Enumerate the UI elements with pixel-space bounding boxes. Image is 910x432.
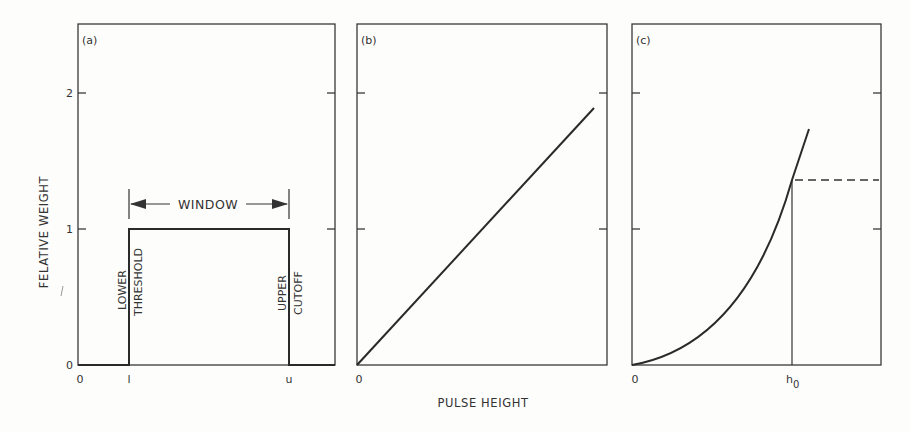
panel-b: (b) 0 PULSE HEIGHT <box>356 24 608 410</box>
figure: WINDOW LOWER THRESHOLD UPPER CUTOFF (a) … <box>0 0 910 432</box>
linear-weight-line <box>357 108 594 365</box>
ytick-label-2: 2 <box>66 87 73 100</box>
panel-a-tag: (a) <box>82 34 97 47</box>
a-xtick-u: u <box>286 373 293 386</box>
a-xtick-l: l <box>127 373 130 386</box>
b-xtick-0: 0 <box>356 373 363 386</box>
panel-b-frame <box>357 24 607 365</box>
h-symbol: h <box>786 373 793 386</box>
panel-b-tag: (b) <box>361 34 377 47</box>
arrowhead-right-icon <box>272 199 288 209</box>
threshold-label: THRESHOLD <box>132 248 145 317</box>
a-xtick-0: 0 <box>77 373 84 386</box>
panel-c-frame <box>632 24 881 365</box>
x-axis-label: PULSE HEIGHT <box>437 396 528 410</box>
c-xtick-h0: h0 <box>786 373 799 390</box>
quadratic-weight-curve <box>632 129 809 365</box>
cutoff-label: CUTOFF <box>292 271 305 315</box>
panel-c-tag: (c) <box>636 34 651 47</box>
panel-c: (c) 0 h0 <box>632 24 882 390</box>
scan-artifact <box>61 286 63 296</box>
c-xtick-0: 0 <box>632 373 639 386</box>
ytick-label-1: 1 <box>66 223 73 236</box>
lower-label: LOWER <box>116 270 129 310</box>
ytick-label-0: 0 <box>66 359 73 372</box>
y-axis-label: FELATIVE WEIGHT <box>37 175 51 288</box>
panel-a: WINDOW LOWER THRESHOLD UPPER CUTOFF (a) … <box>37 24 335 386</box>
window-label: WINDOW <box>178 197 238 212</box>
upper-label: UPPER <box>276 275 289 311</box>
arrowhead-left-icon <box>130 199 146 209</box>
h-subscript: 0 <box>793 379 799 390</box>
